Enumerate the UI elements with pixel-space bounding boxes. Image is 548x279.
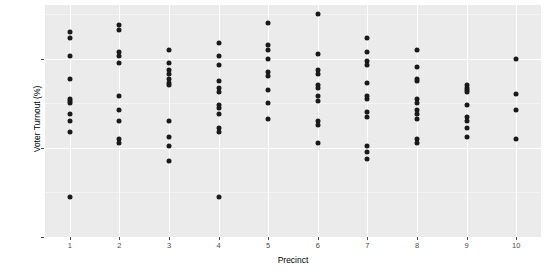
y-axis-label-wrap: Voter Turnout (%) bbox=[0, 0, 20, 237]
data-point bbox=[266, 47, 271, 52]
data-point bbox=[117, 94, 122, 99]
data-point bbox=[315, 52, 320, 57]
data-point bbox=[117, 119, 122, 124]
data-point bbox=[365, 81, 370, 86]
data-point bbox=[216, 130, 221, 135]
data-point bbox=[216, 63, 221, 68]
x-tick-mark bbox=[70, 237, 71, 240]
x-tick-label: 3 bbox=[167, 241, 171, 250]
data-point bbox=[67, 29, 72, 34]
data-point bbox=[365, 114, 370, 119]
x-tick-label: 6 bbox=[316, 241, 320, 250]
data-point bbox=[117, 61, 122, 66]
data-point bbox=[266, 116, 271, 121]
data-point bbox=[167, 134, 172, 139]
data-point bbox=[67, 36, 72, 41]
x-tick-mark bbox=[169, 237, 170, 240]
data-point bbox=[464, 134, 469, 139]
data-point bbox=[365, 96, 370, 101]
x-tick-mark bbox=[417, 237, 418, 240]
x-tick-label: 1 bbox=[68, 241, 72, 250]
x-tick-label: 8 bbox=[415, 241, 419, 250]
data-point bbox=[167, 61, 172, 66]
x-tick-mark bbox=[467, 237, 468, 240]
data-point bbox=[464, 90, 469, 95]
x-tick-label: 9 bbox=[465, 241, 469, 250]
data-point bbox=[117, 27, 122, 32]
data-point bbox=[365, 156, 370, 161]
data-point bbox=[67, 194, 72, 199]
x-tick-label: 5 bbox=[266, 241, 270, 250]
data-point bbox=[167, 143, 172, 148]
x-tick-label: 2 bbox=[117, 241, 121, 250]
data-point bbox=[67, 54, 72, 59]
x-tick-label: 7 bbox=[365, 241, 369, 250]
x-tick-mark bbox=[367, 237, 368, 240]
data-point bbox=[117, 141, 122, 146]
data-point bbox=[514, 136, 519, 141]
gridline-major-x bbox=[516, 5, 517, 237]
data-point bbox=[415, 47, 420, 52]
data-point bbox=[464, 119, 469, 124]
y-tick-mark bbox=[41, 237, 44, 238]
data-point bbox=[216, 105, 221, 110]
data-point bbox=[315, 11, 320, 16]
data-point bbox=[315, 85, 320, 90]
data-point bbox=[216, 40, 221, 45]
x-tick-mark bbox=[268, 237, 269, 240]
data-point bbox=[514, 56, 519, 61]
data-point bbox=[67, 130, 72, 135]
data-point bbox=[315, 98, 320, 103]
data-point bbox=[266, 56, 271, 61]
x-tick-mark bbox=[318, 237, 319, 240]
data-point bbox=[216, 90, 221, 95]
y-axis-label: Voter Turnout (%) bbox=[32, 85, 42, 152]
data-point bbox=[266, 101, 271, 106]
data-point bbox=[415, 141, 420, 146]
data-point bbox=[365, 63, 370, 68]
data-point bbox=[415, 65, 420, 70]
data-point bbox=[266, 20, 271, 25]
data-point bbox=[464, 103, 469, 108]
data-point bbox=[167, 47, 172, 52]
data-point bbox=[365, 49, 370, 54]
scatter-plot: Voter Turnout (%) Precinct 0204012345678… bbox=[0, 0, 548, 279]
data-point bbox=[266, 74, 271, 79]
y-tick-mark bbox=[41, 148, 44, 149]
data-point bbox=[365, 150, 370, 155]
x-tick-mark bbox=[516, 237, 517, 240]
data-point bbox=[365, 143, 370, 148]
data-point bbox=[216, 54, 221, 59]
data-point bbox=[216, 194, 221, 199]
data-point bbox=[415, 78, 420, 83]
x-tick-label: 4 bbox=[217, 241, 221, 250]
data-point bbox=[365, 36, 370, 41]
data-point bbox=[315, 123, 320, 128]
x-tick-label: 10 bbox=[512, 241, 520, 250]
data-point bbox=[117, 54, 122, 59]
data-point bbox=[117, 107, 122, 112]
data-point bbox=[167, 159, 172, 164]
data-point bbox=[415, 101, 420, 106]
y-tick-mark bbox=[41, 59, 44, 60]
data-point bbox=[167, 83, 172, 88]
data-point bbox=[464, 125, 469, 130]
data-point bbox=[216, 78, 221, 83]
data-point bbox=[67, 101, 72, 106]
data-point bbox=[415, 116, 420, 121]
data-point bbox=[514, 92, 519, 97]
data-point bbox=[315, 72, 320, 77]
data-point bbox=[167, 119, 172, 124]
x-axis-label: Precinct bbox=[45, 255, 541, 265]
x-tick-mark bbox=[119, 237, 120, 240]
data-point bbox=[67, 112, 72, 117]
data-point bbox=[67, 76, 72, 81]
data-point bbox=[216, 112, 221, 117]
x-tick-mark bbox=[219, 237, 220, 240]
data-point bbox=[266, 87, 271, 92]
data-point bbox=[67, 119, 72, 124]
data-point bbox=[514, 107, 519, 112]
plot-panel bbox=[45, 5, 541, 237]
data-point bbox=[315, 141, 320, 146]
